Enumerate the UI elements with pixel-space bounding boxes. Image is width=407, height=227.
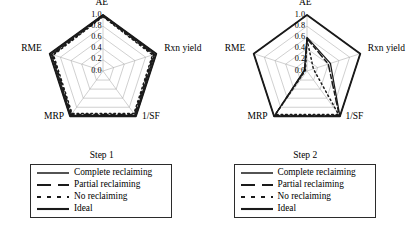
axis-label-rxn-yield-0: Rxn yield <box>164 44 201 54</box>
axis-label-1-sf-1: 1/SF <box>345 112 363 122</box>
legend-item-ideal-1: Ideal <box>238 203 372 215</box>
legend-label-complete-reclaiming-0: Complete reclaiming <box>72 168 152 177</box>
panel-title-step-2: Step 2 <box>204 150 407 160</box>
axis-label-ae-0: AE <box>0 0 204 8</box>
legend-line-solid-bold-1 <box>238 203 276 215</box>
tick-label-0-6-1: 0.6 <box>295 33 305 41</box>
legend-item-no-reclaiming-0: No reclaiming <box>34 191 168 203</box>
axis-label-rme-1: RME <box>225 44 246 54</box>
legend-label-no-reclaiming-0: No reclaiming <box>72 192 127 201</box>
tick-label-1-0-1: 1.0 <box>295 11 305 19</box>
axis-label-mrp-0: MRP <box>44 112 64 122</box>
tick-label-0-0-0: 0.0 <box>91 67 101 75</box>
legend-line-dashed-0 <box>34 179 72 191</box>
axis-label-mrp-1: MRP <box>248 112 268 122</box>
legend-line-dashed-1 <box>238 179 276 191</box>
legend-label-partial-reclaiming-1: Partial reclaiming <box>276 180 344 189</box>
legend-line-solid-bold-0 <box>34 203 72 215</box>
radar-chart-figure: AE Rxn yield 1/SF MRP RME 1.0 0.8 0.6 0.… <box>0 0 407 227</box>
tick-label-1-0-0: 1.0 <box>91 11 101 19</box>
legend-label-partial-reclaiming-0: Partial reclaiming <box>72 180 140 189</box>
legend-line-dotted-1 <box>238 191 276 203</box>
axis-label-rme-0: RME <box>21 44 42 54</box>
legend-item-complete-reclaiming-0: Complete reclaiming <box>34 167 168 179</box>
legend-item-ideal-0: Ideal <box>34 203 168 215</box>
legend-step-2: Complete reclaiming Partial reclaiming N… <box>234 164 376 218</box>
legend-label-ideal-1: Ideal <box>276 204 297 213</box>
radar-svg-step-1 <box>0 0 204 148</box>
panel-step-1: AE Rxn yield 1/SF MRP RME 1.0 0.8 0.6 0.… <box>0 0 204 227</box>
tick-label-0-8-1: 0.8 <box>295 22 305 30</box>
tick-label-0-2-0: 0.2 <box>91 55 101 63</box>
radar-svg-step-2 <box>204 0 407 148</box>
tick-label-0-0-1: 0.0 <box>295 67 305 75</box>
tick-label-0-6-0: 0.6 <box>91 33 101 41</box>
axis-label-ae-1: AE <box>204 0 407 8</box>
panel-title-step-1: Step 1 <box>0 150 204 160</box>
tick-label-0-4-0: 0.4 <box>91 44 101 52</box>
legend-item-partial-reclaiming-1: Partial reclaiming <box>238 179 372 191</box>
legend-item-complete-reclaiming-1: Complete reclaiming <box>238 167 372 179</box>
panel-step-2: AE Rxn yield 1/SF MRP RME 1.0 0.8 0.6 0.… <box>204 0 407 227</box>
legend-label-ideal-0: Ideal <box>72 204 93 213</box>
tick-label-0-2-1: 0.2 <box>295 55 305 63</box>
axis-label-rxn-yield-1: Rxn yield <box>368 44 405 54</box>
axis-label-1-sf-0: 1/SF <box>142 112 160 122</box>
plot-area-step-1: AE Rxn yield 1/SF MRP RME 1.0 0.8 0.6 0.… <box>0 0 204 148</box>
legend-label-complete-reclaiming-1: Complete reclaiming <box>276 168 356 177</box>
legend-item-no-reclaiming-1: No reclaiming <box>238 191 372 203</box>
legend-line-dotted-0 <box>34 191 72 203</box>
legend-step-1: Complete reclaiming Partial reclaiming N… <box>30 164 172 218</box>
tick-label-0-8-0: 0.8 <box>91 22 101 30</box>
plot-area-step-2: AE Rxn yield 1/SF MRP RME 1.0 0.8 0.6 0.… <box>204 0 407 148</box>
tick-label-0-4-1: 0.4 <box>295 44 305 52</box>
legend-item-partial-reclaiming-0: Partial reclaiming <box>34 179 168 191</box>
legend-label-no-reclaiming-1: No reclaiming <box>276 192 331 201</box>
legend-line-solid-0 <box>34 167 72 179</box>
legend-line-solid-1 <box>238 167 276 179</box>
